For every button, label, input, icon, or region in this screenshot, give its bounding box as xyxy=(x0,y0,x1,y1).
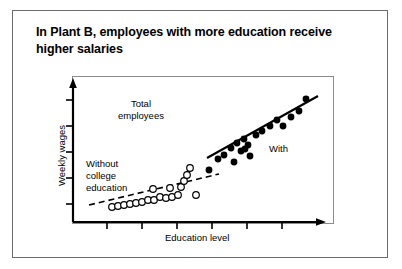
y-axis-label: Weekly wages xyxy=(56,125,67,186)
x-axis xyxy=(73,218,326,229)
scatter-points-with-college xyxy=(206,96,310,174)
x-axis-label: Education level xyxy=(165,232,229,243)
annotation-with-college: With xyxy=(269,143,288,155)
annotation-total-employees: Total employees xyxy=(118,98,164,122)
y-axis xyxy=(66,78,77,222)
annotation-without-college: Without college education xyxy=(86,158,127,194)
figure-container: In Plant B, employees with more educatio… xyxy=(0,0,402,269)
trendline-with-college xyxy=(207,96,318,158)
